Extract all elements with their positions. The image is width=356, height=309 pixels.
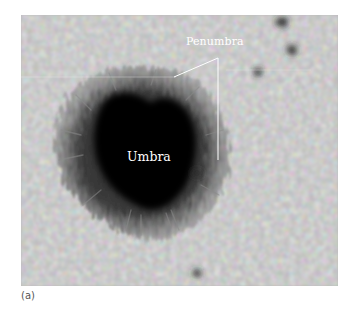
sunspot-image — [21, 15, 338, 286]
figure-caption: (a) — [21, 291, 35, 301]
umbra-label: Umbra — [127, 151, 171, 164]
penumbra-label: Penumbra — [186, 36, 244, 47]
sunspot-photo: Penumbra Umbra — [21, 15, 338, 286]
